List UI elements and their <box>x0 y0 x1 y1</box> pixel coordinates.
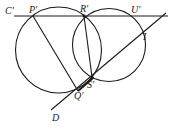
label-r: R′ <box>79 3 89 14</box>
circle-right <box>73 9 146 82</box>
label-i: I <box>142 31 147 42</box>
label-q: Q′ <box>74 90 84 101</box>
segment-p-q <box>33 16 78 91</box>
label-p: P′ <box>28 4 38 15</box>
line-d <box>51 13 166 110</box>
label-s: S′ <box>87 79 95 90</box>
label-c: C′ <box>5 5 15 16</box>
point-r <box>83 15 86 18</box>
label-u: U′ <box>131 4 141 15</box>
diagram-canvas: C′ P′ R′ U′ I S′ Q′ D <box>0 0 172 135</box>
geometry-diagram: C′ P′ R′ U′ I S′ Q′ D <box>0 0 172 135</box>
segment-r-s <box>84 16 92 77</box>
label-d: D <box>51 112 60 123</box>
